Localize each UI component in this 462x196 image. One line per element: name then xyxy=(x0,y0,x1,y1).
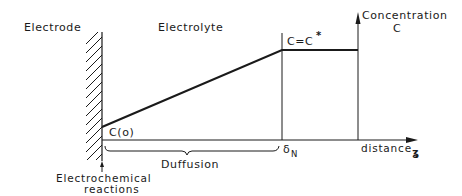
concentration-symbol-label: C xyxy=(393,22,401,35)
diffusion-layer-diagram: Electrode Electrolyte Concentration C C=… xyxy=(0,0,462,196)
distance-label: distance xyxy=(361,142,412,154)
bulk-concentration-label: C=C xyxy=(287,35,313,48)
electrolyte-label: Electrolyte xyxy=(158,21,223,34)
bulk-concentration-superscript: * xyxy=(316,30,322,41)
concentration-axis-arrow-icon xyxy=(356,12,361,24)
distance-symbol: ʓ xyxy=(412,146,420,159)
concentration-label: Concentration xyxy=(362,9,448,22)
diffusion-brace xyxy=(105,146,279,155)
electrode-hatching xyxy=(86,28,102,170)
electrode-label: Electrode xyxy=(24,21,81,34)
surface-concentration-label: C(o) xyxy=(109,126,134,139)
concentration-profile xyxy=(102,50,358,127)
reaction-arrow-icon xyxy=(100,161,104,167)
diffusion-label: Duffusion xyxy=(161,158,219,171)
delta-label: δ xyxy=(283,143,290,156)
reactions-label-line2: reactions xyxy=(84,183,140,195)
delta-subscript: N xyxy=(291,149,298,159)
